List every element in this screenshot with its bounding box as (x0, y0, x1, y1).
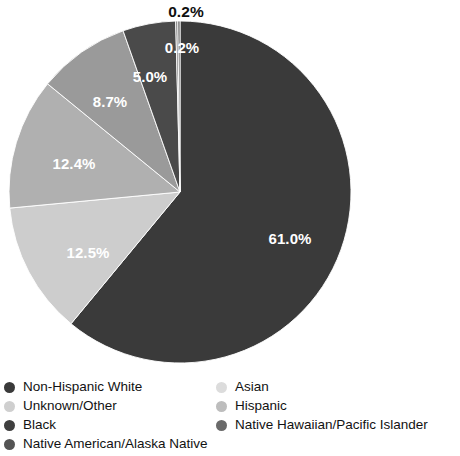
legend-swatch-icon (216, 401, 227, 412)
legend-column-right: AsianHispanicNative Hawaiian/Pacific Isl… (216, 378, 460, 435)
pie-slice-group (9, 21, 351, 363)
legend-item[interactable]: Native Hawaiian/Pacific Islander (216, 416, 460, 434)
pie-chart: 61.0%12.5%12.4%8.7%5.0%0.2%0.2% Non-Hisp… (0, 0, 460, 456)
legend-swatch-icon (4, 420, 15, 431)
legend-item-label: Native American/Alaska Native (23, 435, 208, 453)
legend-item[interactable]: Unknown/Other (4, 397, 216, 415)
pie-plot-area: 61.0%12.5%12.4%8.7%5.0%0.2%0.2% (0, 0, 460, 372)
legend-swatch-icon (4, 382, 15, 393)
legend-item[interactable]: Native American/Alaska Native (4, 435, 216, 453)
legend-swatch-icon (216, 420, 227, 431)
chart-legend: Non-Hispanic WhiteUnknown/OtherBlackNati… (0, 378, 460, 456)
legend-swatch-icon (4, 401, 15, 412)
legend-item[interactable]: Asian (216, 378, 460, 396)
legend-item[interactable]: Hispanic (216, 397, 460, 415)
legend-item-label: Hispanic (235, 397, 287, 415)
legend-item-label: Native Hawaiian/Pacific Islander (235, 416, 428, 434)
legend-item-label: Non-Hispanic White (23, 378, 142, 396)
legend-item-label: Unknown/Other (23, 397, 117, 415)
legend-swatch-icon (4, 439, 15, 450)
legend-column-left: Non-Hispanic WhiteUnknown/OtherBlackNati… (4, 378, 216, 454)
pie-svg (0, 0, 460, 372)
legend-swatch-icon (216, 382, 227, 393)
legend-item[interactable]: Non-Hispanic White (4, 378, 216, 396)
legend-item[interactable]: Black (4, 416, 216, 434)
legend-item-label: Asian (235, 378, 269, 396)
legend-item-label: Black (23, 416, 56, 434)
